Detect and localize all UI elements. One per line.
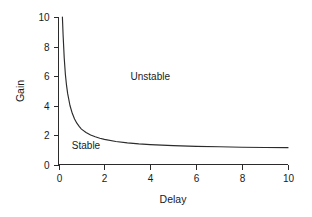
y-axis-title: Gain [14, 80, 26, 102]
stable-region-label: Stable [72, 140, 101, 151]
chart-svg: 0246810 0246810 UnstableStable Delay Gai… [0, 0, 312, 217]
unstable-region-label: Unstable [131, 71, 171, 82]
x-tick-label: 4 [148, 173, 154, 184]
y-tick-label: 10 [38, 12, 50, 23]
y-tick-label: 0 [44, 160, 50, 171]
y-tick-label: 8 [44, 42, 50, 53]
x-axis-title: Delay [160, 193, 188, 205]
y-tick-label: 2 [44, 130, 50, 141]
x-tick-label: 0 [57, 173, 63, 184]
x-tick-label: 6 [194, 173, 200, 184]
x-tick-label: 2 [102, 173, 108, 184]
y-tick-label: 4 [44, 101, 50, 112]
x-tick-label: 8 [240, 173, 246, 184]
stability-chart-figure: 0246810 0246810 UnstableStable Delay Gai… [0, 0, 312, 217]
y-tick-label: 6 [44, 71, 50, 82]
x-tick-label: 10 [283, 173, 295, 184]
